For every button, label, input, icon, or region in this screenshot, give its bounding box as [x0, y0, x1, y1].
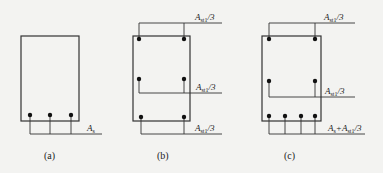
label-c-bottom: As+Ast1/3	[327, 123, 362, 134]
rebar-dots-b	[137, 37, 186, 119]
rebar-dots-c	[267, 37, 317, 118]
label-a-bottom: As	[86, 123, 96, 134]
label-b-middle: Ast1/3	[195, 82, 216, 93]
rebar-layout-diagram: As Ast1/3 Ast1/3 Ast1/3 Ast1/3 Ast1/3 As…	[0, 0, 383, 173]
rebar-dots-a	[28, 113, 73, 117]
beam-section-b	[133, 36, 190, 121]
beam-section-c	[262, 36, 321, 121]
caption-b: (b)	[157, 150, 169, 162]
caption-c: (c)	[284, 150, 295, 162]
leader-lines-b	[139, 23, 222, 134]
label-b-top: Ast1/3	[194, 12, 215, 23]
beam-section-a	[21, 36, 79, 121]
label-c-top: Ast1/3	[323, 12, 344, 23]
label-b-bottom: Ast1/3	[194, 123, 215, 134]
label-c-middle: Ast1/3	[324, 86, 345, 97]
caption-a: (a)	[44, 150, 55, 162]
